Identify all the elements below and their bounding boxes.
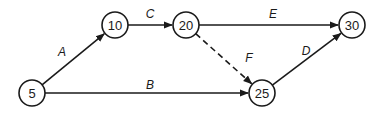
- arrow-f: [196, 34, 252, 84]
- edge-label: E: [269, 7, 278, 21]
- edge-c: C: [128, 7, 172, 25]
- edge-label: A: [57, 45, 66, 59]
- node-5: 5: [19, 80, 45, 106]
- nodes-layer: 510202530: [19, 12, 365, 106]
- edge-label: C: [146, 7, 155, 21]
- edge-e: E: [199, 7, 338, 25]
- arrow-d: [272, 33, 340, 85]
- node-label: 10: [108, 18, 122, 33]
- edge-label: F: [245, 51, 253, 65]
- edge-d: D: [272, 33, 340, 85]
- node-10: 10: [102, 12, 128, 38]
- diagram-canvas: ABCDEF 510202530: [0, 0, 380, 113]
- edge-b: B: [45, 78, 248, 93]
- node-label: 30: [345, 18, 359, 33]
- edge-label: B: [146, 78, 154, 92]
- activity-network-diagram: ABCDEF 510202530: [0, 0, 380, 113]
- edge-a: A: [42, 34, 104, 85]
- edge-label: D: [302, 44, 311, 58]
- edge-f: F: [196, 34, 254, 84]
- node-label: 20: [179, 18, 193, 33]
- arrow-a: [42, 34, 104, 85]
- node-25: 25: [249, 80, 275, 106]
- node-label: 5: [28, 86, 35, 101]
- node-20: 20: [173, 12, 199, 38]
- node-30: 30: [339, 12, 365, 38]
- node-label: 25: [255, 86, 269, 101]
